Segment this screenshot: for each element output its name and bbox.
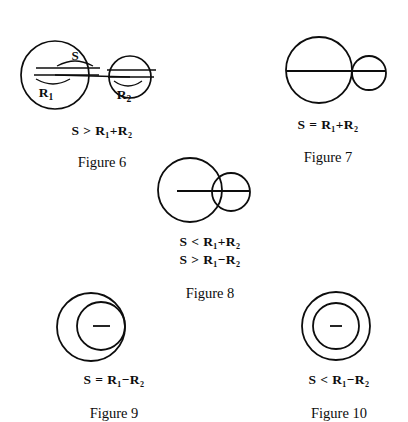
figure-9-block: S = R₁−R₂ Figure 9 [38, 290, 190, 422]
figure-9-caption: S = R₁−R₂ Figure 9 [38, 371, 190, 422]
figure-9-label: Figure 9 [38, 405, 190, 422]
distance-label-s: S [71, 48, 78, 63]
figure-6-relation-1: S > R₁+R₂ [4, 122, 200, 140]
figure-9-diagram [38, 290, 190, 366]
figure-6-diagram: S R1 R2 [4, 18, 200, 118]
radius-label-r1: R1 [39, 85, 54, 102]
figure-7-block: S = R₁+R₂ Figure 7 [252, 18, 404, 166]
small-circle [352, 56, 386, 90]
figure-8-relation-1: S < R₁+R₂ [132, 233, 288, 251]
figure-10-label: Figure 10 [272, 405, 406, 422]
figure-9-relation-1: S = R₁−R₂ [38, 371, 190, 389]
figure-10-diagram [272, 290, 406, 366]
r1-brace [36, 79, 70, 84]
figure-7-relation-1: S = R₁+R₂ [252, 116, 404, 134]
figure-8-diagram [132, 148, 288, 228]
figure-7-diagram [252, 18, 404, 110]
figure-10-block: S < R₁−R₂ Figure 10 [272, 290, 406, 422]
radius-label-r2: R2 [117, 87, 132, 104]
r2-brace [114, 81, 142, 86]
figure-8-block: S < R₁+R₂ S > R₁−R₂ Figure 8 [132, 148, 288, 302]
figure-10-relation-1: S < R₁−R₂ [272, 371, 406, 389]
figure-10-caption: S < R₁−R₂ Figure 10 [272, 371, 406, 422]
figure-8-relation-2: S > R₁−R₂ [132, 251, 288, 269]
